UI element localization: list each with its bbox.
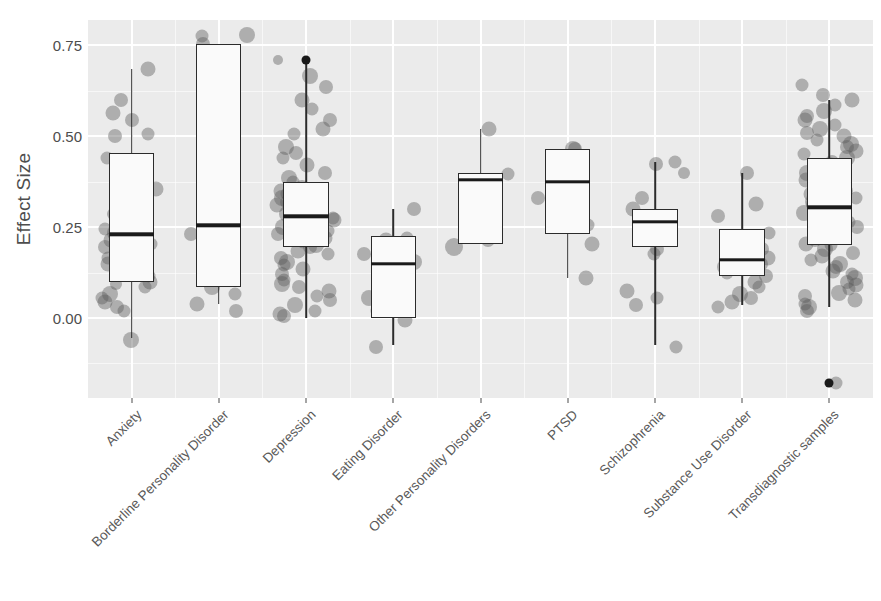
data-point — [670, 341, 683, 354]
data-point — [287, 297, 303, 313]
data-point — [799, 297, 812, 310]
data-point — [140, 62, 155, 77]
data-point — [106, 105, 121, 120]
gridline-minor-vertical — [262, 20, 263, 398]
data-point — [844, 92, 859, 107]
data-point — [278, 273, 291, 286]
data-point — [321, 283, 336, 298]
data-point — [849, 143, 864, 158]
data-point — [357, 247, 371, 261]
data-point — [825, 263, 840, 278]
data-point — [96, 292, 109, 305]
data-point — [814, 249, 829, 264]
x-axis-tick-mark — [654, 398, 655, 403]
data-point — [840, 140, 854, 154]
data-point — [319, 80, 333, 94]
data-point — [846, 246, 860, 260]
x-axis-tick-label: Borderline Personality Disorder — [89, 407, 232, 550]
gridline-minor-vertical — [786, 20, 787, 398]
data-point — [327, 212, 340, 225]
data-point — [300, 158, 315, 173]
x-axis-tick-mark — [218, 398, 219, 403]
data-point — [829, 99, 842, 112]
data-point — [195, 30, 208, 43]
data-point — [744, 291, 758, 305]
data-point — [189, 296, 204, 311]
y-axis-tick-labels: 0.000.250.500.75 — [44, 0, 82, 420]
data-point — [322, 248, 335, 261]
boxplot-median — [807, 205, 852, 208]
data-point — [482, 122, 497, 137]
data-point — [748, 274, 763, 289]
data-point — [800, 109, 814, 123]
data-point — [798, 289, 812, 303]
data-point — [98, 294, 113, 309]
data-point — [843, 136, 859, 152]
data-point — [749, 196, 764, 211]
data-point — [805, 253, 818, 266]
gridline-minor-vertical — [350, 20, 351, 398]
data-point — [323, 293, 337, 307]
boxplot-median — [371, 262, 416, 265]
data-point — [725, 294, 740, 309]
data-point — [800, 126, 814, 140]
data-point — [274, 276, 290, 292]
data-point — [711, 209, 725, 223]
x-axis-tick-mark — [480, 398, 481, 403]
data-point — [272, 307, 287, 322]
data-point — [306, 103, 319, 116]
data-point — [277, 259, 290, 272]
data-point — [292, 280, 306, 294]
x-axis-tick-mark — [567, 398, 568, 403]
data-point — [832, 256, 848, 272]
gridline-minor-vertical — [175, 20, 176, 398]
boxplot-whisker — [654, 162, 656, 346]
boxplot-median — [632, 220, 677, 223]
data-point — [228, 288, 241, 301]
y-axis-tick-label: 0.25 — [53, 219, 82, 236]
data-point — [752, 281, 765, 294]
boxplot-box — [109, 153, 154, 282]
data-point — [649, 157, 663, 171]
boxplot-box — [371, 236, 416, 318]
data-point — [629, 298, 643, 312]
data-point — [678, 167, 690, 179]
data-point — [279, 254, 295, 270]
data-point — [635, 191, 649, 205]
data-point — [118, 304, 131, 317]
boxplot-box — [632, 209, 677, 247]
data-point — [296, 261, 311, 276]
x-axis-tick-mark — [742, 398, 743, 403]
data-point — [318, 166, 332, 180]
boxplot-median — [458, 178, 503, 181]
data-point — [849, 278, 864, 293]
boxplot-box — [807, 158, 852, 245]
data-point — [308, 304, 321, 317]
y-axis-tick-label: 0.00 — [53, 310, 82, 327]
x-axis-tick-label: PTSD — [544, 407, 580, 443]
y-axis-tick-label: 0.50 — [53, 128, 82, 145]
boxplot-box — [719, 229, 764, 276]
x-axis-tick-label: Anxiety — [102, 407, 144, 449]
data-point — [114, 93, 128, 107]
boxplot-median — [283, 215, 328, 218]
x-axis-tick-mark — [306, 398, 307, 403]
boxplot-median — [109, 233, 154, 236]
y-axis-title-text: Effect Size — [13, 153, 35, 246]
data-point — [289, 146, 303, 160]
data-point — [800, 304, 814, 318]
x-axis-tick-mark — [131, 398, 132, 403]
boxplot-median — [719, 258, 764, 261]
data-point — [278, 139, 294, 155]
data-point — [732, 286, 748, 302]
data-point — [239, 27, 255, 43]
y-axis-tick-label: 0.75 — [53, 37, 82, 54]
x-axis-tick-mark — [829, 398, 830, 403]
data-point — [327, 212, 342, 227]
data-point — [585, 236, 600, 251]
data-point — [138, 281, 151, 294]
boxplot-box — [545, 149, 590, 234]
data-point — [840, 275, 854, 289]
data-point — [801, 299, 817, 315]
boxplot-median — [545, 180, 590, 183]
